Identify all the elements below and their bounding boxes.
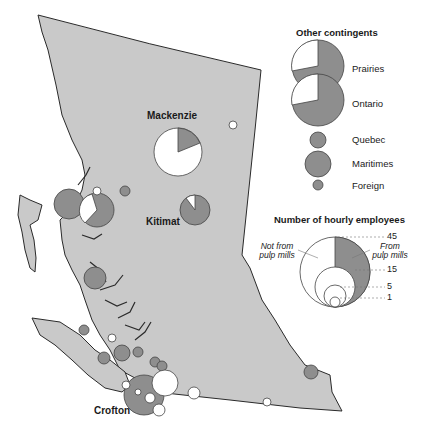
size-tick-1: 1	[387, 292, 392, 302]
legend-item-maritimes: Maritimes	[352, 158, 393, 169]
legend-item-quebec: Quebec	[352, 134, 385, 145]
legend-contingents-symbols	[292, 40, 344, 190]
legend-item-foreign: Foreign	[352, 180, 384, 191]
legend-pulp-note: From pulp mills	[372, 242, 408, 260]
legend-size-title: Number of hourly employees	[274, 214, 405, 225]
legend-not-pulp-note: Not from pulp mills	[252, 242, 302, 260]
size-tick-45: 45	[387, 231, 397, 241]
haida-gwaii	[18, 195, 42, 272]
label-crofton: Crofton	[94, 405, 130, 416]
size-tick-5: 5	[387, 281, 392, 291]
legend-size-symbols	[300, 237, 370, 307]
label-kitimat: Kitimat	[146, 216, 180, 227]
label-mackenzie: Mackenzie	[147, 110, 197, 121]
legend-item-ontario: Ontario	[352, 98, 383, 109]
legend-contingents-title: Other contingents	[296, 27, 378, 38]
size-tick-15: 15	[387, 264, 397, 274]
legend-item-prairies: Prairies	[352, 63, 384, 74]
